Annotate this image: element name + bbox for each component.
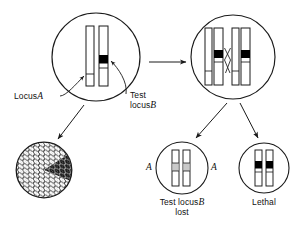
caption-locus-lost-line2: lost xyxy=(136,207,228,217)
label-locus-a-text: Locus xyxy=(14,91,37,101)
caption-lethal: Lethal xyxy=(234,197,294,207)
label-test-locus-b: Test locusB xyxy=(130,90,156,110)
arrow-meiotic-to-locus-lost xyxy=(196,103,227,138)
meiotic-chromatid-4 xyxy=(241,28,250,85)
colony-cell-patch xyxy=(15,141,78,201)
label-test-gene-b: B xyxy=(150,100,156,110)
label-test-line1: Test xyxy=(130,90,156,100)
crossover-chiasma-icon xyxy=(225,48,231,73)
lethal-membrane xyxy=(239,143,289,193)
caption-locus-lost-line1: Test locusB xyxy=(136,197,228,207)
meiotic-chromatid-2 xyxy=(214,28,223,85)
lethal-cell xyxy=(239,143,289,193)
locus-lost-cell xyxy=(156,142,208,194)
arrow-parent-to-colony xyxy=(58,105,84,139)
diagram-vector-layer xyxy=(0,0,305,225)
label-test-line2: locusB xyxy=(130,100,156,110)
parent-chromatid-left xyxy=(86,26,94,86)
meiotic-cell xyxy=(191,15,275,99)
meiotic-chromatid-3 xyxy=(232,28,239,85)
gene-label-a-left: A xyxy=(146,162,152,172)
pointer-test-locus-b xyxy=(111,61,126,94)
caption-gene-b: B xyxy=(198,197,204,207)
arrow-meiotic-to-lethal xyxy=(240,103,258,138)
label-locus-a-gene: A xyxy=(37,91,43,101)
meiotic-dark-band-left xyxy=(214,50,223,58)
locus-lost-chromatid-right xyxy=(183,150,190,186)
parent-chromatid-right xyxy=(99,26,108,86)
gene-label-a-right: A xyxy=(211,162,217,172)
meiotic-chromatid-1 xyxy=(205,28,212,85)
label-locus-a: LocusA xyxy=(14,91,43,101)
lethal-chromatid-right xyxy=(266,150,273,186)
parent-cell xyxy=(52,13,140,101)
test-locus-b-band xyxy=(99,55,108,64)
parent-cell-membrane xyxy=(52,13,140,101)
meiotic-dark-band-right xyxy=(241,50,250,58)
locus-lost-membrane xyxy=(156,142,208,194)
caption-locus-lost: Test locusB lost xyxy=(136,197,228,217)
locus-lost-chromatid-left xyxy=(172,150,179,186)
lethal-chromatid-left xyxy=(255,150,262,186)
figure-canvas: LocusA Test locusB A A Test locusB lost … xyxy=(0,0,305,225)
